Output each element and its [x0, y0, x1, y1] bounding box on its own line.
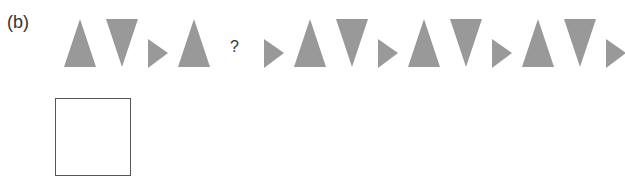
triangle-up-shape	[408, 19, 440, 67]
shape-sequence	[0, 0, 625, 90]
triangle-down-shape	[450, 19, 482, 67]
triangle-down-shape	[106, 19, 138, 67]
missing-item-marker: ?	[230, 38, 239, 56]
triangle-up-shape	[522, 19, 554, 67]
answer-box[interactable]	[55, 98, 131, 176]
triangle-up-shape	[64, 19, 96, 67]
triangle-up-shape	[178, 19, 210, 67]
triangle-right-shape	[148, 39, 168, 68]
triangle-up-shape	[294, 19, 326, 67]
triangle-right-shape	[264, 39, 284, 68]
triangle-down-shape	[336, 19, 368, 67]
triangle-right-shape	[606, 39, 625, 68]
triangle-down-shape	[564, 19, 596, 67]
triangle-right-shape	[378, 39, 398, 68]
triangle-right-shape	[492, 39, 512, 68]
